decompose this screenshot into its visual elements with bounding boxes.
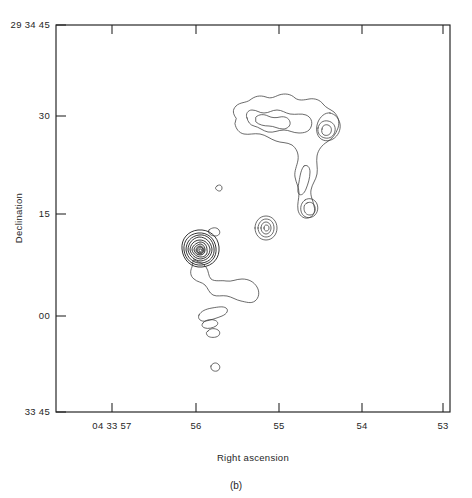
contour-figure: 29 34 45 30 15 00 33 45 04 33 57 56 55 5… [0, 0, 472, 498]
x-tick-label-3: 54 [356, 420, 367, 431]
x-axis-title: Right ascension [217, 452, 289, 463]
x-axis-ticks [112, 25, 443, 412]
plot-frame [56, 25, 450, 412]
contour-core-l10 [199, 249, 202, 252]
y-tick-label-4: 33 45 [25, 406, 50, 417]
contour-southern-blob-b [206, 329, 219, 338]
figure-caption: (b) [230, 480, 242, 491]
y-tick-label-0: 29 34 45 [11, 19, 50, 30]
x-tick-label-4: 53 [437, 420, 448, 431]
contour-southern-streak [198, 307, 227, 321]
contour-secondary-source-ring3 [261, 222, 271, 234]
contour-core-l1 [182, 230, 219, 267]
y-tick-label-2: 15 [39, 208, 50, 219]
contour-northern-lobe-curl [256, 115, 290, 129]
y-tick-label-1: 30 [39, 110, 50, 121]
contour-southern-plateau [191, 260, 259, 303]
contour-plot-svg: 29 34 45 30 15 00 33 45 04 33 57 56 55 5… [0, 0, 472, 498]
y-tick-label-3: 00 [39, 310, 50, 321]
contour-tiny-knot-north [216, 185, 223, 191]
contour-tail-ring-inner [304, 202, 315, 215]
x-tick-label-0: 04 33 57 [92, 420, 131, 431]
contour-northern-lobe-eastbulge [317, 113, 341, 141]
contour-isolated-knot-south [211, 363, 220, 371]
y-axis-title: Declination [13, 193, 24, 243]
contour-secondary-source-ring4 [264, 225, 269, 231]
x-tick-label-1: 56 [190, 420, 201, 431]
contour-layer [182, 94, 340, 371]
contour-lobe-knot-inner [322, 125, 332, 136]
contour-tail-filament [298, 165, 310, 194]
contour-nucleus-north-spur [208, 228, 219, 236]
x-tick-label-2: 55 [273, 420, 284, 431]
y-axis-ticks [56, 25, 66, 412]
